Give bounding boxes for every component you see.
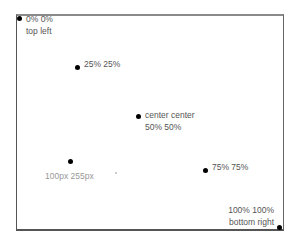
- point-bottom-right-dot: [277, 225, 282, 230]
- point-quarter-value: 25% 25%: [84, 58, 120, 70]
- point-bottom-right-value: 100% 100%: [222, 204, 274, 216]
- point-bottom-right-keyword: bottom right: [222, 216, 274, 228]
- point-three-quarter-label: 75% 75%: [212, 161, 248, 173]
- point-top-left-label: 0% 0% top left: [26, 13, 53, 37]
- point-center-dot: [136, 114, 141, 119]
- point-top-left-dot: [17, 16, 22, 21]
- point-top-left-keyword: top left: [26, 25, 53, 37]
- point-pixel-dot: [68, 159, 73, 164]
- point-pixel-label: 100px 255px: [45, 170, 94, 182]
- point-pixel-marker: [115, 172, 117, 174]
- point-three-quarter-value: 75% 75%: [212, 161, 248, 173]
- point-center-value: 50% 50%: [145, 121, 195, 133]
- point-center-keyword: center center: [145, 109, 195, 121]
- point-center-label: center center 50% 50%: [145, 109, 195, 133]
- point-quarter-dot: [75, 65, 80, 70]
- point-three-quarter-dot: [203, 168, 208, 173]
- point-bottom-right-label: 100% 100% bottom right: [222, 204, 274, 228]
- point-quarter-label: 25% 25%: [84, 58, 120, 70]
- point-pixel-value: 100px 255px: [45, 170, 94, 182]
- point-top-left-value: 0% 0%: [26, 13, 53, 25]
